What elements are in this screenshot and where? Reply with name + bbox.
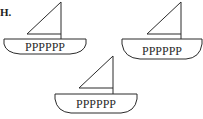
hull-text: PPPPPP — [76, 97, 116, 111]
boat-top-left: PPPPPP — [4, 2, 86, 54]
boats-diagram: PPPPPP PPPPPP PPPPPP — [0, 0, 203, 119]
sail-icon — [27, 2, 61, 39]
sail-icon — [147, 2, 181, 39]
hull-text: PPPPPP — [25, 40, 65, 54]
hull-text: PPPPPP — [142, 44, 182, 58]
boat-bottom-center: PPPPPP — [55, 56, 137, 113]
boat-top-right: PPPPPP — [122, 2, 202, 59]
